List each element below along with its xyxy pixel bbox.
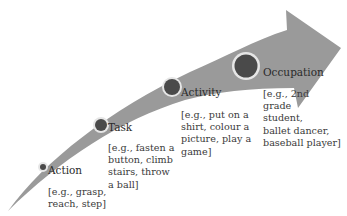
stage-node-task	[93, 117, 109, 133]
stage-label-task: Task	[108, 121, 132, 133]
stage-node-occupation	[232, 52, 260, 80]
stage-example-task: [e.g., fasten a button, climb stairs, th…	[108, 142, 174, 191]
stage-label-action: Action	[48, 164, 82, 176]
stage-label-occupation: Occupation	[263, 66, 324, 78]
stage-node-action	[38, 162, 48, 172]
stage-label-activity: Activity	[181, 86, 221, 98]
stage-node-activity	[162, 77, 182, 97]
stage-example-activity: [e.g., put on a shirt, colour a picture,…	[181, 109, 251, 158]
stage-example-occupation: [e.g., 2nd grade student, ballet dancer,…	[263, 88, 341, 149]
stage-example-action: [e.g., grasp, reach, step]	[48, 186, 106, 210]
